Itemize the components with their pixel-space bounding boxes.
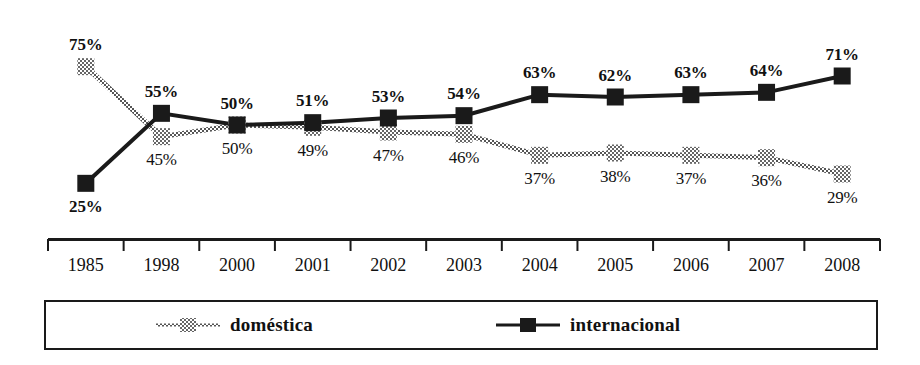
- data-point-marker: [834, 166, 851, 183]
- legend-label-domestica: doméstica: [230, 314, 313, 336]
- data-label-domestica-2004: 37%: [524, 170, 555, 187]
- data-label-domestica-2000: 50%: [222, 140, 253, 157]
- x-tick-label-1985: 1985: [68, 256, 104, 274]
- data-point-marker: [834, 68, 851, 85]
- data-point-marker: [456, 126, 473, 143]
- x-tick-label-2005: 2005: [597, 256, 633, 274]
- data-label-domestica-2008: 29%: [827, 189, 858, 206]
- data-label-internacional-2005: 62%: [599, 67, 632, 84]
- legend-label-internacional: internacional: [570, 314, 680, 336]
- legend-item-domestica[interactable]: doméstica: [156, 314, 313, 336]
- data-point-marker: [456, 107, 473, 124]
- data-point-marker: [607, 145, 624, 162]
- data-label-internacional-2003: 54%: [447, 85, 480, 102]
- line-chart: 75%45%50%49%47%46%37%38%37%36%29%25%55%5…: [0, 0, 920, 365]
- hatched-square-icon: [156, 315, 220, 335]
- data-point-marker: [153, 128, 170, 145]
- legend-item-internacional[interactable]: internacional: [496, 314, 680, 336]
- data-label-domestica-2006: 37%: [676, 170, 707, 187]
- data-label-internacional-1985: 25%: [69, 198, 102, 215]
- data-label-domestica-2005: 38%: [600, 168, 631, 185]
- data-label-internacional-2000: 50%: [220, 95, 253, 112]
- data-point-marker: [77, 175, 94, 192]
- data-point-marker: [758, 149, 775, 166]
- x-axis: 1985199820002001200220032004200520062007…: [0, 236, 920, 292]
- x-tick-label-1998: 1998: [143, 256, 179, 274]
- x-tick-label-2000: 2000: [219, 256, 255, 274]
- data-label-internacional-1998: 55%: [145, 83, 178, 100]
- data-label-internacional-2002: 53%: [372, 88, 405, 105]
- data-label-internacional-2007: 64%: [750, 62, 783, 79]
- data-point-marker: [758, 84, 775, 101]
- data-label-domestica-1998: 45%: [146, 151, 177, 168]
- data-label-domestica-2002: 47%: [373, 147, 404, 164]
- data-point-marker: [380, 110, 397, 127]
- plot-area: 75%45%50%49%47%46%37%38%37%36%29%25%55%5…: [0, 0, 920, 240]
- x-tick-label-2001: 2001: [295, 256, 331, 274]
- data-point-marker: [531, 147, 548, 164]
- data-label-internacional-2004: 63%: [523, 64, 556, 81]
- data-label-domestica-2007: 36%: [751, 172, 782, 189]
- data-point-marker: [682, 86, 699, 103]
- legend: doméstica internacional: [44, 300, 878, 350]
- x-tick-label-2006: 2006: [673, 256, 709, 274]
- data-point-marker: [682, 147, 699, 164]
- x-tick-label-2003: 2003: [446, 256, 482, 274]
- solid-square-icon: [496, 315, 560, 335]
- data-label-domestica-2003: 46%: [449, 149, 480, 166]
- data-label-internacional-2006: 63%: [674, 64, 707, 81]
- data-point-marker: [77, 58, 94, 75]
- x-tick-label-2008: 2008: [824, 256, 860, 274]
- x-tick-label-2007: 2007: [749, 256, 785, 274]
- data-label-domestica-1985: 75%: [69, 36, 102, 53]
- data-label-domestica-2001: 49%: [297, 142, 328, 159]
- x-tick-label-2002: 2002: [370, 256, 406, 274]
- data-point-marker: [304, 114, 321, 131]
- data-point-marker: [153, 105, 170, 122]
- data-point-marker: [531, 86, 548, 103]
- data-label-internacional-2001: 51%: [296, 92, 329, 109]
- x-tick-label-2004: 2004: [522, 256, 558, 274]
- data-label-internacional-2008: 71%: [825, 46, 858, 63]
- data-point-marker: [229, 117, 246, 134]
- data-point-marker: [607, 89, 624, 106]
- plot-svg: [0, 0, 920, 240]
